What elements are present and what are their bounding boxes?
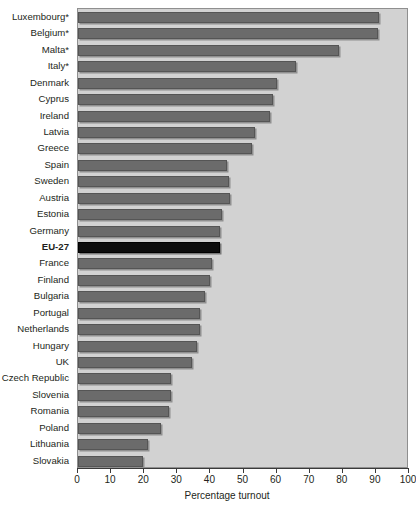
- bar: [78, 45, 339, 56]
- x-tick-label: 10: [105, 474, 116, 485]
- bar-row: [78, 272, 407, 289]
- bar: [78, 127, 255, 138]
- bar: [78, 439, 148, 450]
- bar: [78, 275, 210, 286]
- bar: [78, 111, 270, 122]
- bar: [78, 423, 161, 434]
- bar-row: [78, 338, 407, 355]
- x-tick: [408, 468, 409, 473]
- bar: [78, 176, 229, 187]
- category-label: Hungary: [33, 337, 69, 354]
- bar-row: [78, 420, 407, 437]
- category-label: Lithuania: [30, 435, 69, 452]
- x-tick-label: 50: [237, 474, 248, 485]
- x-tick-label: 20: [138, 474, 149, 485]
- x-tick-label: 80: [336, 474, 347, 485]
- x-axis-title: Percentage turnout: [0, 490, 416, 501]
- bar: [78, 94, 273, 105]
- x-tick: [176, 468, 177, 473]
- bar-row: [78, 206, 407, 223]
- bar: [78, 258, 212, 269]
- category-label: Austria: [39, 189, 69, 206]
- bar: [78, 61, 296, 72]
- x-tick: [375, 468, 376, 473]
- x-tick: [77, 468, 78, 473]
- bar: [78, 324, 200, 335]
- bar: [78, 78, 277, 89]
- bar: [78, 390, 171, 401]
- category-label: Cyprus: [39, 90, 69, 107]
- plot-area: [77, 8, 408, 468]
- bar-row: [78, 140, 407, 157]
- bar: [78, 373, 171, 384]
- bar-row: [78, 173, 407, 190]
- bar-row: [78, 58, 407, 75]
- bar: [78, 12, 379, 23]
- x-tick: [243, 468, 244, 473]
- category-label: UK: [56, 353, 69, 370]
- turnout-bar-chart: Luxembourg*Belgium*Malta*Italy*DenmarkCy…: [0, 0, 416, 513]
- category-label: Romania: [31, 402, 69, 419]
- bar-row: [78, 453, 407, 468]
- x-tick-label: 0: [74, 474, 80, 485]
- category-label: EU-27: [42, 238, 69, 255]
- bar-highlight: [78, 242, 220, 253]
- x-tick-label: 40: [204, 474, 215, 485]
- bar-row: [78, 91, 407, 108]
- x-tick: [309, 468, 310, 473]
- x-tick-label: 90: [369, 474, 380, 485]
- category-label: Spain: [44, 156, 69, 173]
- x-tick: [110, 468, 111, 473]
- category-label: Greece: [38, 139, 69, 156]
- category-label: Germany: [30, 222, 69, 239]
- category-label: Slovakia: [33, 452, 69, 469]
- x-tick: [342, 468, 343, 473]
- bar-row: [78, 370, 407, 387]
- bar-row: [78, 75, 407, 92]
- category-label: Luxembourg*: [12, 8, 69, 25]
- category-label: Poland: [39, 419, 69, 436]
- bar-row: [78, 108, 407, 125]
- bar: [78, 193, 230, 204]
- bar-row: [78, 124, 407, 141]
- category-label: Malta*: [42, 41, 69, 58]
- bar: [78, 209, 222, 220]
- category-label: Italy*: [48, 57, 69, 74]
- bar-row: [78, 288, 407, 305]
- bar-row: [78, 305, 407, 322]
- x-tick-label: 60: [270, 474, 281, 485]
- x-tick: [276, 468, 277, 473]
- x-tick-label: 100: [400, 474, 416, 485]
- category-axis-labels: Luxembourg*Belgium*Malta*Italy*DenmarkCy…: [0, 8, 73, 468]
- category-label: Netherlands: [17, 320, 69, 337]
- bar-row: [78, 190, 407, 207]
- bar-row: [78, 403, 407, 420]
- x-tick-label: 30: [171, 474, 182, 485]
- bar: [78, 28, 378, 39]
- bar-row: [78, 436, 407, 453]
- bar: [78, 308, 200, 319]
- category-label: Sweden: [34, 172, 69, 189]
- x-tick: [209, 468, 210, 473]
- category-label: Belgium*: [31, 24, 69, 41]
- bar-row: [78, 25, 407, 42]
- bar-row: [78, 321, 407, 338]
- bar: [78, 160, 227, 171]
- category-label: Czech Republic: [2, 369, 69, 386]
- bar-row: [78, 255, 407, 272]
- bar-row: [78, 223, 407, 240]
- bar: [78, 291, 205, 302]
- category-label: Latvia: [43, 123, 69, 140]
- x-tick: [143, 468, 144, 473]
- bar-row: [78, 42, 407, 59]
- category-label: Portugal: [33, 304, 69, 321]
- category-label: France: [39, 254, 69, 271]
- bar-row: [78, 9, 407, 26]
- bar: [78, 456, 143, 467]
- bar-row: [78, 354, 407, 371]
- bar: [78, 406, 169, 417]
- x-axis-title-text: Percentage turnout: [184, 490, 269, 501]
- category-label: Estonia: [37, 205, 69, 222]
- bar: [78, 357, 192, 368]
- category-label: Ireland: [40, 107, 69, 124]
